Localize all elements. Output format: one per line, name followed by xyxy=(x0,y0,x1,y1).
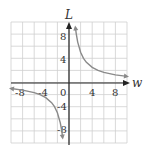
x-tick-8: 8 xyxy=(112,87,118,98)
curve-arrow-icon xyxy=(73,25,78,30)
y-axis-label: L xyxy=(64,8,73,22)
chart-canvas: w L -8 -4 0 4 8 8 4 -4 -8 xyxy=(0,0,145,154)
y-tick-4: 4 xyxy=(60,54,66,65)
curve-arrow-icon xyxy=(9,86,14,91)
curve-arrow-icon xyxy=(60,134,65,139)
curve-branch-1 xyxy=(75,27,127,76)
x-tick-4: 4 xyxy=(89,87,95,98)
x-axis-label: w xyxy=(132,76,143,90)
y-tick-8: 8 xyxy=(60,31,66,42)
x-axis-arrow-icon xyxy=(123,80,130,86)
curve-arrow-icon xyxy=(124,74,129,79)
x-tick-0: 0 xyxy=(60,87,66,98)
y-axis-arrow-icon xyxy=(66,22,72,29)
y-tick-neg4: -4 xyxy=(57,101,67,112)
